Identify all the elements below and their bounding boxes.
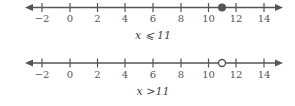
tick-label: 0 xyxy=(67,69,73,80)
arrow-left-icon xyxy=(25,60,33,67)
closed-point-marker xyxy=(218,4,226,12)
tick-label: −2 xyxy=(35,69,50,80)
tick-label: 2 xyxy=(94,69,100,80)
arrow-left-icon xyxy=(25,4,33,11)
tick-label: 2 xyxy=(94,13,100,24)
tick-label: 10 xyxy=(202,13,215,24)
tick-label: −2 xyxy=(35,13,50,24)
tick-label: 6 xyxy=(150,69,156,80)
arrow-right-icon xyxy=(275,60,283,67)
number-line-1: −2 0 2 4 6 8 10 12 14 x ⩽ 11 xyxy=(25,3,283,42)
inequality-caption: x ⩽ 11 xyxy=(135,29,171,42)
tick-label: 14 xyxy=(258,69,271,80)
tick-label: 4 xyxy=(122,69,128,80)
open-point-marker xyxy=(219,60,226,67)
tick-label: 14 xyxy=(258,13,271,24)
number-line-2: −2 0 2 4 6 8 10 12 14 x >11 xyxy=(25,59,283,98)
number-line-diagram: −2 0 2 4 6 8 10 12 14 x ⩽ 11 −2 0 2 4 xyxy=(0,0,295,106)
tick-label: 12 xyxy=(230,13,243,24)
tick-label: 10 xyxy=(202,69,215,80)
arrow-right-icon xyxy=(275,4,283,11)
tick-label: 8 xyxy=(178,69,184,80)
tick-label: 12 xyxy=(230,69,243,80)
tick-label: 4 xyxy=(122,13,128,24)
tick-label: 6 xyxy=(150,13,156,24)
tick-label: 0 xyxy=(67,13,73,24)
inequality-caption: x >11 xyxy=(137,85,170,98)
tick-label: 8 xyxy=(178,13,184,24)
